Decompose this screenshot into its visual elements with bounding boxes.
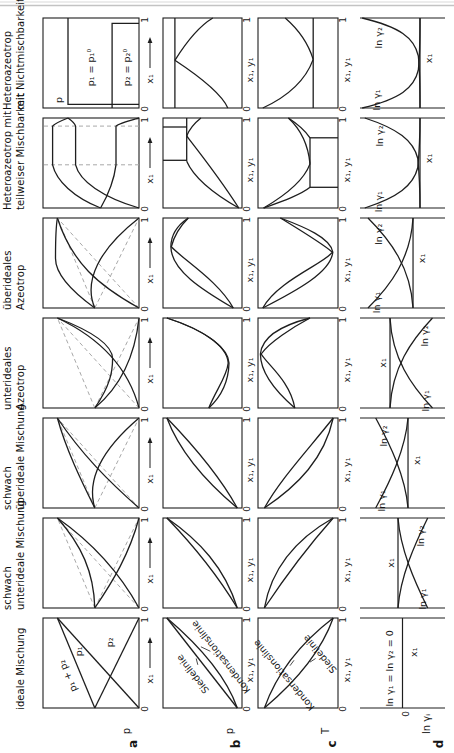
tick-1: 1 bbox=[243, 217, 252, 223]
tick-0: 0 bbox=[141, 306, 150, 312]
gamma-label: ln γ₂ bbox=[375, 125, 385, 146]
x1y1-axis-label: x₁, y₁ bbox=[342, 458, 352, 483]
gamma-label: ln γ₁ bbox=[372, 292, 382, 313]
plot-frame-b-schwach-unterideale-mischung bbox=[163, 518, 242, 608]
gamma-label: ln γ₁ bbox=[374, 191, 384, 212]
tick-1: 1 bbox=[243, 517, 252, 523]
x1y1-axis-label: x₁, y₁ bbox=[342, 558, 352, 583]
tick-0: 0 bbox=[243, 206, 252, 212]
x1-arrow-head bbox=[148, 537, 153, 543]
column-header-schwach-unterideale-mischung: schwach bbox=[2, 566, 13, 610]
tick-1: 1 bbox=[339, 617, 348, 623]
x1-axis-label: x₁ bbox=[145, 274, 155, 283]
figure-canvas: apbpcTdln γᵢideale Mischungp₁ + p₂p₁p₂Si… bbox=[0, 0, 454, 753]
tick-1: 1 bbox=[243, 117, 252, 123]
x1y1-axis-label: x₁, y₁ bbox=[245, 358, 255, 383]
x1y1-axis-label: x₁, y₁ bbox=[342, 58, 352, 83]
curve-b-schwach-unterideale-mischung bbox=[167, 518, 237, 608]
curve-c-heteroazeotrop-teilweise bbox=[264, 187, 310, 208]
row-letter-d: d bbox=[433, 740, 446, 749]
label-leader-b-ideale-mischung bbox=[196, 659, 198, 665]
curve-b-schwach-ueberideale-mischung bbox=[167, 418, 237, 508]
x1-axis-label: x₁ bbox=[145, 374, 155, 383]
tick-1: 1 bbox=[339, 517, 348, 523]
curve-a-schwach-unterideale-mischung bbox=[95, 518, 139, 608]
gamma-label: ln γ₁ bbox=[377, 490, 387, 511]
tick-0: 0 bbox=[141, 706, 150, 712]
tick-0: 0 bbox=[339, 406, 348, 412]
column-header-heteroazeotrop-nichtmischbar: mit Nichtmischbarkeit bbox=[15, 0, 26, 110]
column-header-schwach-unterideale-mischung: unterideale Mischung bbox=[15, 500, 26, 610]
curve-a-heteroazeotrop-teilweise bbox=[53, 118, 101, 208]
gamma-label: ln γ₂ bbox=[420, 325, 430, 346]
plot-frame-a-unterideales-azeotrop bbox=[43, 318, 139, 408]
row-axis-label-d: ln γᵢ bbox=[422, 714, 433, 734]
gamma-label: x₁ bbox=[378, 358, 388, 367]
tick-0: 0 bbox=[141, 106, 150, 112]
x1y1-axis-label: x₁, y₁ bbox=[342, 258, 352, 283]
curve-b-heteroazeotrop-teilweise bbox=[187, 136, 239, 208]
x1y1-axis-label: x₁, y₁ bbox=[342, 358, 352, 383]
tick-1: 1 bbox=[141, 317, 150, 323]
gamma-label: ln γ₂ bbox=[379, 425, 389, 446]
x1y1-axis-label: x₁, y₁ bbox=[245, 58, 255, 83]
tick-0: 0 bbox=[141, 606, 150, 612]
tick-0: 0 bbox=[243, 606, 252, 612]
x1y1-axis-label: x₁, y₁ bbox=[245, 558, 255, 583]
curve-a-schwach-unterideale-mischung bbox=[57, 518, 139, 608]
tick-0: 0 bbox=[339, 706, 348, 712]
x1-axis-label: x₁ bbox=[145, 674, 155, 683]
x1-axis-label: x₁ bbox=[145, 174, 155, 183]
row-axis-label-b: p bbox=[225, 728, 236, 734]
gamma-label: ln γ₂ bbox=[374, 224, 384, 245]
curve-b-heteroazeotrop-nichtmischbar bbox=[175, 18, 213, 60]
tick-0: 0 bbox=[339, 206, 348, 212]
column-header-heteroazeotrop-nichtmischbar: Heteroazeotrop bbox=[2, 31, 13, 110]
curve-b-heteroazeotrop-teilweise bbox=[187, 161, 239, 208]
gamma-label: ln γ₁ bbox=[421, 390, 431, 411]
x1-axis-label: x₁ bbox=[145, 574, 155, 583]
tick-1: 1 bbox=[141, 517, 150, 523]
gamma-label: ln γ₁ bbox=[418, 588, 428, 609]
curve-label: p₁ = p₁⁰ bbox=[86, 49, 96, 87]
plot-frame-c-schwach-ueberideale-mischung bbox=[258, 418, 338, 508]
curve-c-schwach-ueberideale-mischung bbox=[264, 418, 333, 508]
plot-frame-c-ueberideales-azeotrop bbox=[258, 218, 338, 308]
column-header-heteroazeotrop-teilweise: teilweiser Mischbarkeit bbox=[15, 93, 26, 210]
plot-frame-c-unterideales-azeotrop bbox=[258, 318, 338, 408]
curve-label: p₁ bbox=[74, 646, 84, 656]
d-zero-tick: 0 bbox=[402, 711, 411, 717]
row-letter-c: c bbox=[326, 740, 339, 747]
plot-frame-b-schwach-ueberideale-mischung bbox=[163, 418, 242, 508]
tick-0: 0 bbox=[339, 606, 348, 612]
column-header-schwach-ueberideale-mischung: überideale Mischung bbox=[15, 404, 26, 510]
tick-0: 0 bbox=[243, 406, 252, 412]
curve-a-ideale-mischung bbox=[57, 618, 139, 708]
page: apbpcTdln γᵢideale Mischungp₁ + p₂p₁p₂Si… bbox=[0, 0, 454, 753]
tick-1: 1 bbox=[339, 117, 348, 123]
curve-b-schwach-unterideale-mischung bbox=[167, 518, 237, 608]
curve-a-heteroazeotrop-teilweise bbox=[68, 118, 139, 208]
x1-axis-label: x₁ bbox=[145, 74, 155, 83]
plot-frame-b-unterideales-azeotrop bbox=[163, 318, 242, 408]
curve-a-unterideales-azeotrop bbox=[57, 318, 112, 408]
curve-c-heteroazeotrop-nichtmischbar bbox=[263, 59, 313, 108]
tick-0: 0 bbox=[243, 306, 252, 312]
tick-1: 1 bbox=[141, 617, 150, 623]
curve-a-unterideales-azeotrop bbox=[57, 318, 139, 408]
curve-a-schwach-unterideale-mischung bbox=[57, 518, 139, 608]
gamma-label: ln γ₁ = ln γ₂ = 0 bbox=[385, 630, 395, 706]
x1-axis-label: x₁ bbox=[145, 474, 155, 483]
curve-b-unterideales-azeotrop bbox=[167, 318, 229, 408]
gamma-label: x₁ bbox=[386, 558, 396, 567]
x1-arrow-head bbox=[148, 37, 153, 43]
curve-c-heteroazeotrop-nichtmischbar bbox=[285, 18, 313, 59]
gamma-label: ln γ₂ bbox=[374, 27, 384, 48]
curve-c-unterideales-azeotrop bbox=[261, 318, 310, 408]
tick-1: 1 bbox=[141, 417, 150, 423]
curve-a-schwach-ueberideale-mischung bbox=[57, 418, 139, 508]
curve-a-schwach-ueberideale-mischung bbox=[57, 418, 94, 508]
gamma-label: x₁ bbox=[417, 254, 427, 263]
tick-0: 0 bbox=[243, 506, 252, 512]
curve-a-unterideales-azeotrop bbox=[57, 318, 139, 408]
